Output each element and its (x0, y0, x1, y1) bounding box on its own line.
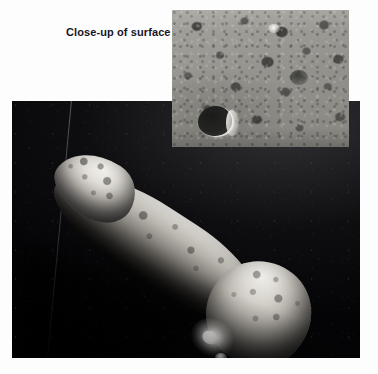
surface-closeup-photo (172, 10, 349, 147)
inset-secondary-crater (290, 70, 308, 85)
asteroid-figure: Close-up of surface (0, 0, 378, 374)
close-up-caption: Close-up of surface (66, 26, 171, 39)
inset-bright-spot (268, 24, 280, 33)
